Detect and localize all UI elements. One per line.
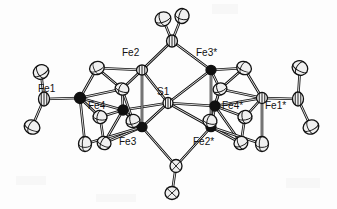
atom-body-filled (118, 105, 128, 115)
atom-label-fe2star: Fe2* (193, 137, 214, 147)
atom-label-fe3: Fe3 (119, 137, 136, 147)
atom-fe2 (137, 65, 148, 75)
atom-topm (167, 35, 178, 47)
atom-cl5 (79, 137, 92, 152)
atom-body-filled (210, 101, 220, 111)
atom-label-fe4: Fe4 (88, 101, 105, 111)
molecular-structure-drawing (0, 0, 337, 209)
atom-label-fe2: Fe2 (122, 48, 139, 58)
atom-botm (170, 160, 182, 173)
atom-fe4s (210, 101, 220, 111)
atom-body (256, 137, 269, 152)
atom-trm (293, 92, 304, 106)
atom-label-fe3star: Fe3* (196, 48, 217, 58)
atom-body (79, 137, 92, 152)
atom-body-filled (206, 65, 216, 74)
ortep-structure-figure: Fe2Fe3*Fe1S1Fe4Fe4*Fe1*Fe3Fe2* (0, 0, 337, 209)
atom-fe3s (206, 65, 216, 74)
atom-label-fe1star: Fe1* (265, 101, 286, 111)
atom-label-fe4star: Fe4* (222, 101, 243, 111)
atom-tlm (39, 92, 50, 106)
atom-label-s1: S1 (157, 87, 169, 97)
atom-s1 (163, 98, 173, 109)
atom-label-fe1: Fe1 (38, 84, 55, 94)
atom-bota (165, 187, 179, 200)
atom-fe4 (118, 105, 128, 115)
atom-body-filled (75, 93, 86, 104)
atom-fe1 (75, 93, 86, 104)
atom-cr5 (256, 137, 269, 152)
